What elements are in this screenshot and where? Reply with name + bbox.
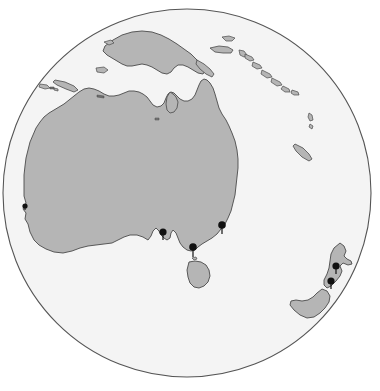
map-container	[0, 0, 380, 391]
land-gulf-islet	[155, 118, 159, 120]
land-tasmania	[187, 261, 210, 288]
globe-map	[0, 0, 380, 391]
land-tiny-islet	[50, 87, 54, 89]
